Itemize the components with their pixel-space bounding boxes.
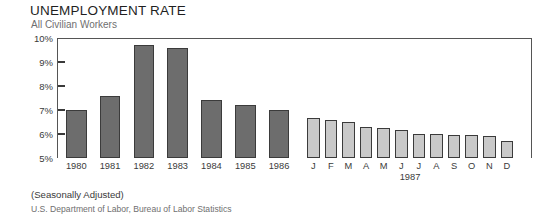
bar-annual <box>134 45 155 158</box>
bar-annual <box>167 48 188 158</box>
y-tick-label: 10% <box>34 33 53 44</box>
bar-monthly <box>483 136 496 158</box>
bar-monthly <box>430 134 443 158</box>
bar-annual <box>235 105 256 158</box>
bar-annual <box>66 110 87 158</box>
bar-monthly <box>342 122 355 158</box>
period-label: 1987 <box>380 172 440 182</box>
chart-title: UNEMPLOYMENT RATE <box>30 3 186 18</box>
bar-monthly <box>448 135 461 158</box>
bar-annual <box>269 110 290 158</box>
x-tick-label-month: D <box>487 161 527 171</box>
bar-monthly <box>465 135 478 158</box>
chart-figure: UNEMPLOYMENT RATE All Civilian Workers 5… <box>0 0 555 221</box>
bar-annual <box>201 100 222 158</box>
y-tick-label: 7% <box>39 105 53 116</box>
source-note: U.S. Department of Labor, Bureau of Labo… <box>31 204 232 214</box>
bar-monthly <box>360 127 373 158</box>
bar-monthly <box>377 128 390 158</box>
y-tick-label: 6% <box>39 129 53 140</box>
y-tick-label: 8% <box>39 81 53 92</box>
bar-monthly <box>413 134 426 158</box>
y-axis-labels: 5%6%7%8%9%10% <box>0 0 53 221</box>
bar-monthly <box>501 141 514 158</box>
bar-monthly <box>325 120 338 158</box>
bar-monthly <box>307 118 320 158</box>
y-tick-label: 9% <box>39 57 53 68</box>
bar-monthly <box>395 130 408 158</box>
plot-area <box>58 38 532 158</box>
bar-annual <box>100 96 121 158</box>
seasonally-adjusted-note: (Seasonally Adjusted) <box>31 189 124 200</box>
